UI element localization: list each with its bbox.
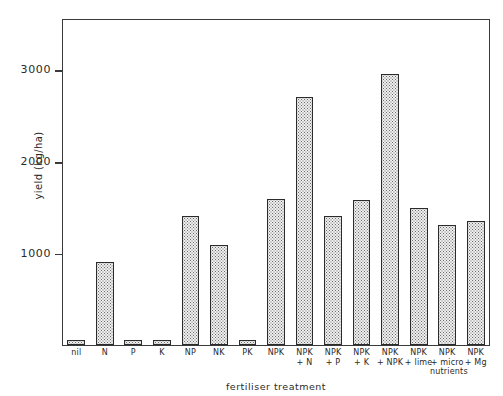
bar	[124, 340, 142, 346]
bar-series	[62, 19, 490, 346]
y-tick-1000: 1000	[0, 254, 62, 255]
y-tick-label: 3000	[21, 63, 51, 76]
bar	[353, 200, 371, 345]
x-tick-label: NPK + Mg	[458, 348, 493, 367]
x-axis-title: fertiliser treatment	[62, 381, 490, 392]
bar	[438, 225, 456, 345]
bar	[467, 221, 485, 345]
bar	[239, 340, 257, 345]
bar	[182, 216, 200, 345]
y-tick-2000: 2000	[0, 162, 62, 163]
top-caption-remnant	[236, 0, 296, 3]
y-tick-mark	[55, 70, 62, 71]
bar	[410, 208, 428, 345]
y-tick-mark	[55, 162, 62, 163]
y-tick-label: 2000	[21, 155, 51, 168]
bar	[296, 97, 314, 345]
y-tick-label: 1000	[21, 247, 51, 260]
bar	[267, 199, 285, 345]
bar	[96, 262, 114, 345]
y-tick-3000: 3000	[0, 70, 62, 71]
bar	[324, 216, 342, 346]
bar	[153, 340, 171, 346]
bar	[210, 245, 228, 345]
chart-figure: yield (kg/ha) 100020003000 nilNPKNPNKPKN…	[0, 0, 503, 396]
bar	[67, 340, 85, 345]
y-tick-mark	[55, 254, 62, 255]
bar	[381, 74, 399, 345]
